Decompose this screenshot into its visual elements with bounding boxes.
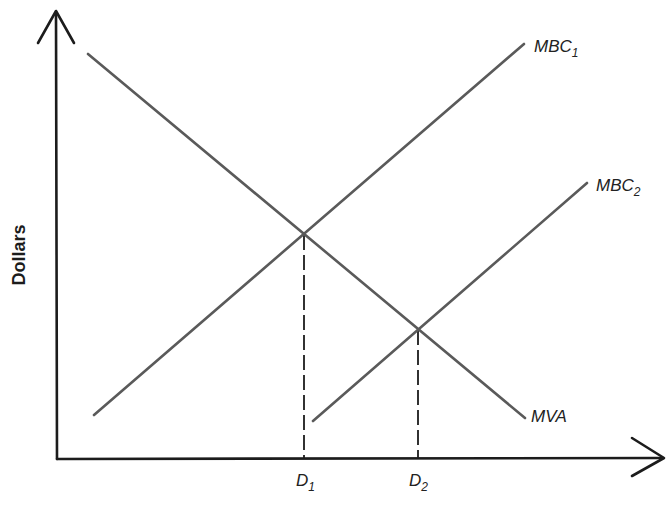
d2-tick-label: D2 bbox=[409, 471, 428, 494]
y-axis-line bbox=[56, 12, 57, 459]
mbc1-label: MBC1 bbox=[534, 37, 578, 60]
mbc2-label: MBC2 bbox=[596, 176, 641, 199]
y-axis-label: Dollars bbox=[9, 224, 29, 285]
x-axis-line bbox=[57, 458, 663, 459]
x-axis bbox=[57, 438, 664, 476]
supply-demand-diagram: MBC1 MBC2 MVA D1 D2 Dollars bbox=[0, 0, 670, 512]
y-axis bbox=[38, 11, 74, 459]
mva-label: MVA bbox=[531, 407, 567, 426]
mbc1-curve bbox=[94, 44, 524, 415]
mbc2-curve bbox=[313, 183, 587, 421]
diagram-canvas: MBC1 MBC2 MVA D1 D2 Dollars bbox=[0, 0, 670, 512]
d1-tick-label: D1 bbox=[296, 471, 315, 494]
